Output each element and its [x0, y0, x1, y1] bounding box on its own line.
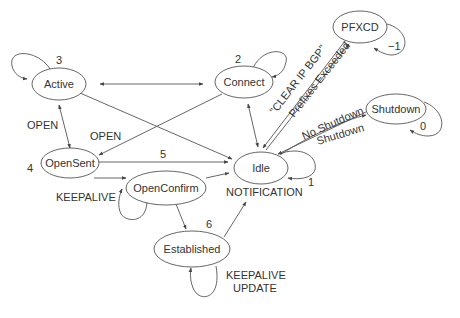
bgp-state-diagram: Active Connect PFXCD Shutdown Idle OpenS…: [0, 0, 460, 318]
edge-connect-idle: [248, 104, 258, 147]
edge-active-idle: [80, 93, 232, 159]
label-keepalive-established: KEEPALIVE: [226, 269, 286, 281]
edge-openconfirm-established: [176, 204, 186, 229]
state-idle: Idle: [234, 152, 288, 184]
edge-connect-opensent: [99, 94, 222, 155]
edge-active-opensent: [59, 105, 70, 148]
edge-established-loop: [190, 266, 217, 297]
label-notification: NOTIFICATION: [226, 186, 303, 198]
label-open-connect: OPEN: [90, 130, 121, 142]
state-number-openconfirm: 5: [160, 148, 166, 160]
state-openconfirm: OpenConfirm: [126, 171, 206, 205]
state-shutdown: Shutdown: [366, 94, 426, 124]
svg-text:Shutdown: Shutdown: [372, 103, 421, 115]
state-number-established: 6: [206, 218, 212, 230]
svg-text:Established: Established: [164, 243, 221, 255]
state-number-pfxcd: −1: [388, 40, 401, 52]
state-opensent: OpenSent: [41, 148, 99, 178]
state-active: Active: [32, 68, 86, 100]
state-number-idle: 1: [308, 176, 314, 188]
state-established: Established: [154, 231, 230, 267]
edge-openconfirm-idle: [206, 173, 229, 178]
state-connect: Connect: [215, 66, 273, 98]
state-number-connect: 2: [235, 53, 241, 65]
svg-text:PFXCD: PFXCD: [341, 21, 378, 33]
state-pfxcd: PFXCD: [333, 11, 387, 43]
state-number-active: 3: [56, 54, 62, 66]
svg-text:OpenSent: OpenSent: [45, 157, 95, 169]
label-open-active: OPEN: [27, 119, 58, 131]
state-number-opensent: 4: [27, 162, 33, 174]
label-update-established: UPDATE: [233, 282, 277, 294]
label-keepalive-openconfirm: KEEPALIVE: [56, 191, 116, 203]
svg-text:OpenConfirm: OpenConfirm: [133, 182, 198, 194]
state-number-shutdown: 0: [420, 120, 426, 132]
svg-text:Idle: Idle: [252, 162, 270, 174]
svg-text:Connect: Connect: [224, 76, 265, 88]
svg-text:Active: Active: [44, 78, 74, 90]
edge-established-idle: [224, 202, 246, 237]
